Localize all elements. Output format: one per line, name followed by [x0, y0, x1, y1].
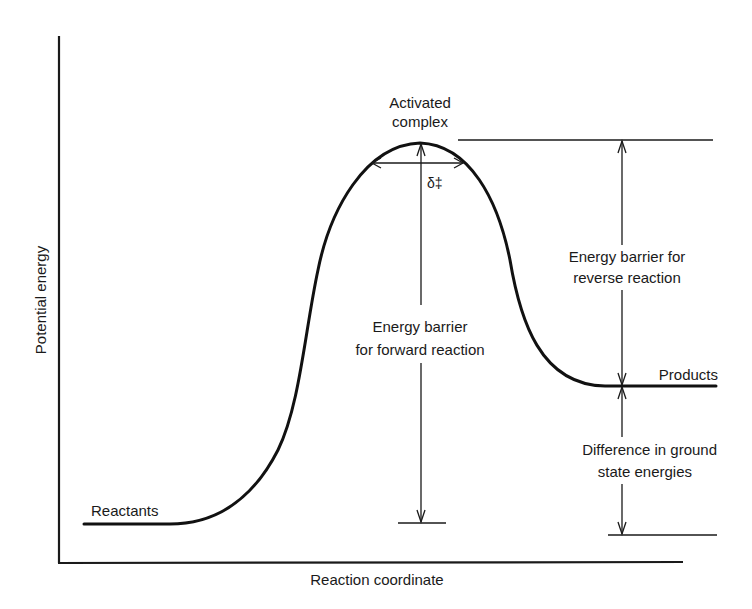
activated-complex-label-1: Activated — [389, 94, 451, 111]
activated-complex-label-2: complex — [392, 113, 448, 130]
ground-state-label-2: state energies — [598, 463, 692, 480]
diagram-canvas: Activated complex δ‡ Energy barrier for … — [0, 0, 752, 609]
x-axis — [58, 562, 683, 563]
products-label: Products — [659, 366, 718, 383]
forward-barrier-label-2: for forward reaction — [355, 341, 484, 358]
ground-state-label-1: Difference in ground — [582, 441, 717, 458]
delta-double-dagger-label: δ‡ — [427, 175, 443, 191]
reverse-barrier-label-1: Energy barrier for — [569, 248, 686, 265]
x-axis-label: Reaction coordinate — [310, 571, 443, 588]
forward-barrier-label-1: Energy barrier — [372, 318, 467, 335]
axes — [58, 36, 683, 563]
energy-diagram: Activated complex δ‡ Energy barrier for … — [0, 0, 752, 609]
delta-double-arrow — [372, 158, 463, 168]
reverse-barrier-label-2: reverse reaction — [573, 269, 681, 286]
y-axis-label: Potential energy — [32, 245, 49, 354]
ground-state-difference-arrow — [608, 387, 717, 535]
reactants-label: Reactants — [91, 502, 159, 519]
